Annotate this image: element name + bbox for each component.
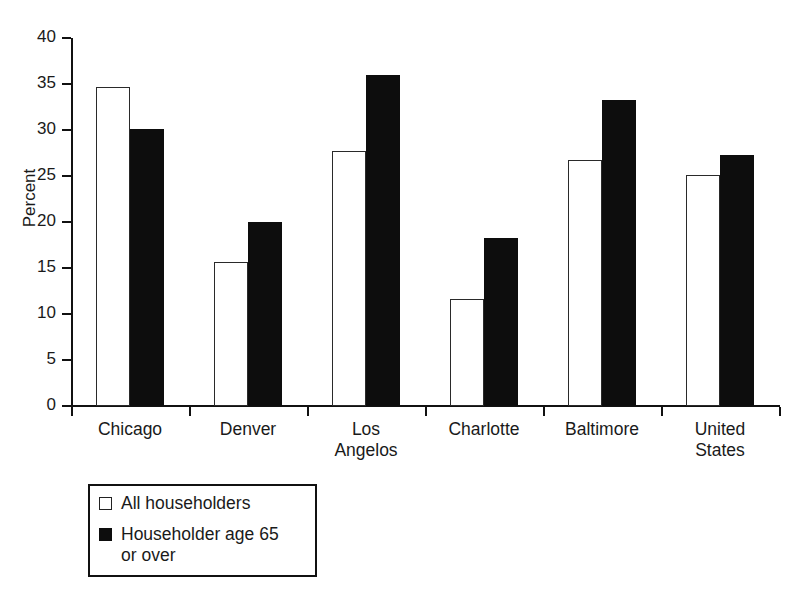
bar-baltimore-series-1 (602, 100, 636, 406)
y-tick-mark (62, 267, 71, 269)
y-tick-5: 5 (62, 359, 71, 361)
x-tick-mark (543, 407, 545, 416)
y-tick-label: 10 (37, 303, 56, 323)
y-tick-25: 25 (62, 175, 71, 177)
y-tick-mark (62, 221, 71, 223)
x-tick-mark (425, 407, 427, 416)
x-axis-category-label: Chicago (71, 419, 189, 440)
x-tick-mark (189, 407, 191, 416)
y-tick-label: 30 (37, 119, 56, 139)
y-tick-40: 40 (62, 37, 71, 39)
x-axis-category-label: United States (661, 419, 779, 461)
bar-denver-series-1 (248, 222, 282, 406)
y-tick-label: 25 (37, 165, 56, 185)
bar-united-states-series-1 (720, 155, 754, 406)
x-tick-mark (71, 407, 73, 416)
y-tick-0: 0 (62, 405, 71, 407)
y-tick-20: 20 (62, 221, 71, 223)
x-axis-category-label: Los Angelos (307, 419, 425, 461)
y-axis-label: Percent (20, 138, 40, 258)
bar-los-angelos-series-0 (332, 151, 366, 406)
y-tick-mark (62, 37, 71, 39)
y-tick-mark (62, 83, 71, 85)
y-tick-label: 20 (37, 211, 56, 231)
y-axis-line (71, 38, 73, 407)
bar-chicago-series-0 (96, 87, 130, 406)
x-tick-mark (307, 407, 309, 416)
bar-chicago-series-1 (130, 129, 164, 406)
y-tick-10: 10 (62, 313, 71, 315)
bar-denver-series-0 (214, 262, 248, 406)
bar-los-angelos-series-1 (366, 75, 400, 406)
y-tick-label: 0 (47, 395, 56, 415)
legend-item-age-65-or-over: Householder age 65 or over (99, 524, 279, 566)
plot-area: 4035302520151050ChicagoDenverLos Angelos… (71, 38, 779, 406)
bar-charlotte-series-0 (450, 299, 484, 406)
x-axis-category-label: Charlotte (425, 419, 543, 440)
bar-chart: Percent 4035302520151050ChicagoDenverLos… (0, 0, 806, 599)
y-tick-label: 5 (47, 349, 56, 369)
x-tick-mark (779, 407, 781, 416)
legend-swatch-black-icon (99, 528, 112, 541)
y-tick-mark (62, 175, 71, 177)
legend-label-all-householders: All householders (121, 493, 250, 514)
bar-united-states-series-0 (686, 175, 720, 406)
x-tick-mark (661, 407, 663, 416)
y-tick-mark (62, 405, 71, 407)
y-tick-label: 15 (37, 257, 56, 277)
y-tick-mark (62, 313, 71, 315)
y-tick-35: 35 (62, 83, 71, 85)
bar-charlotte-series-1 (484, 238, 518, 406)
x-axis-category-label: Denver (189, 419, 307, 440)
y-tick-15: 15 (62, 267, 71, 269)
chart-legend: All householders Householder age 65 or o… (88, 484, 317, 577)
legend-label-age-65-or-over: Householder age 65 or over (121, 524, 279, 566)
y-tick-label: 40 (37, 27, 56, 47)
y-tick-mark (62, 359, 71, 361)
x-axis-category-label: Baltimore (543, 419, 661, 440)
y-tick-30: 30 (62, 129, 71, 131)
bar-baltimore-series-0 (568, 160, 602, 406)
legend-item-all-householders: All householders (99, 493, 250, 514)
y-tick-label: 35 (37, 73, 56, 93)
y-tick-mark (62, 129, 71, 131)
legend-swatch-white-icon (99, 497, 112, 510)
